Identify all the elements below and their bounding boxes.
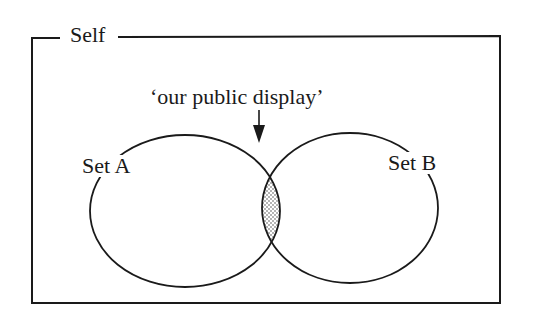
frame-label-self: Self (64, 24, 111, 46)
set-a-label: Set A (80, 155, 132, 177)
annotation-public-display: ‘our public display’ (150, 86, 324, 108)
arrow-down-icon (253, 110, 265, 143)
set-b-label: Set B (386, 152, 438, 174)
